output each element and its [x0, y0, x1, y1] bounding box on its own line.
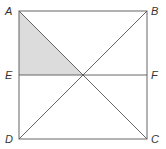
label-c: C: [151, 133, 159, 145]
label-e: E: [5, 69, 13, 81]
label-b: B: [151, 5, 158, 17]
label-d: D: [5, 133, 13, 145]
square-diagram: A B C D E F: [0, 0, 166, 149]
label-a: A: [4, 5, 12, 17]
label-f: F: [151, 69, 159, 81]
